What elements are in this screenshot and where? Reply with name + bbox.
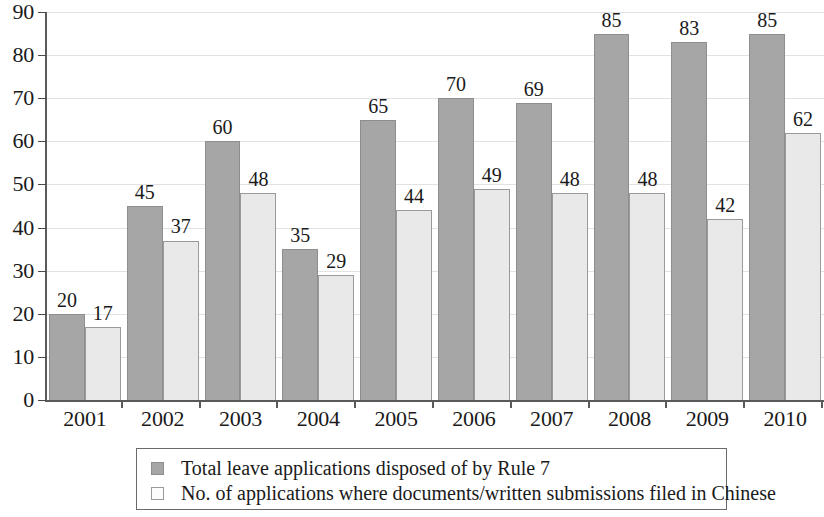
- bar-group: [205, 0, 277, 400]
- legend-item-label: No. of applications where documents/writ…: [181, 482, 776, 504]
- legend: Total leave applications disposed of by …: [136, 448, 727, 510]
- bar-value-label: 17: [79, 303, 127, 323]
- bar-value-label: 44: [390, 186, 438, 206]
- x-tick-mark: [121, 400, 123, 408]
- y-tick-label: 20: [0, 303, 34, 325]
- bar-value-label: 62: [779, 109, 824, 129]
- bar-light: [707, 219, 743, 400]
- bar-dark: [749, 34, 785, 400]
- bar-value-label: 29: [312, 251, 360, 271]
- y-tick-mark: [38, 184, 46, 185]
- bar-dark: [49, 314, 85, 400]
- bars-layer: 2017453760483529654470496948854883428562: [46, 0, 824, 400]
- bar-value-label: 48: [235, 169, 283, 189]
- bar-group: [749, 0, 821, 400]
- y-tick-mark: [38, 228, 46, 229]
- y-tick-label: 30: [0, 260, 34, 282]
- x-tick-label: 2009: [668, 404, 746, 434]
- x-tick-label: 2006: [435, 404, 513, 434]
- plot-area: 0102030405060708090 20174537604835296544…: [0, 0, 824, 420]
- y-tick-label: 70: [0, 87, 34, 109]
- bar-value-label: 60: [199, 117, 247, 137]
- bar-dark: [282, 249, 318, 400]
- bar-dark: [516, 103, 552, 400]
- x-axis-line: [45, 400, 824, 402]
- x-tick-mark: [354, 400, 356, 408]
- legend-item: Total leave applications disposed of by …: [151, 456, 726, 480]
- x-tick-label: 2001: [46, 404, 124, 434]
- x-axis: 2001200220032004200520062007200820092010: [46, 404, 824, 440]
- y-tick-label: 40: [0, 217, 34, 239]
- x-tick-label: 2004: [279, 404, 357, 434]
- y-tick-mark: [38, 314, 46, 315]
- bar-light: [240, 193, 276, 400]
- x-tick-mark: [276, 400, 278, 408]
- x-tick-mark: [665, 400, 667, 408]
- bar-value-label: 48: [546, 169, 594, 189]
- legend-item: No. of applications where documents/writ…: [151, 481, 726, 505]
- bar-light: [85, 327, 121, 400]
- bar-light: [552, 193, 588, 400]
- x-tick-mark: [588, 400, 590, 408]
- bar-value-label: 70: [432, 74, 480, 94]
- bar-group: [282, 0, 354, 400]
- x-tick-mark: [821, 400, 823, 408]
- x-tick-mark: [432, 400, 434, 408]
- legend-item-label: Total leave applications disposed of by …: [181, 457, 550, 479]
- bar-value-label: 37: [157, 216, 205, 236]
- y-tick-label: 50: [0, 173, 34, 195]
- x-tick-mark: [510, 400, 512, 408]
- x-tick-label: 2005: [357, 404, 435, 434]
- y-tick-label: 10: [0, 346, 34, 368]
- bar-value-label: 83: [665, 18, 713, 38]
- x-tick-label: 2008: [591, 404, 669, 434]
- legend-swatch-dark-icon: [151, 462, 164, 475]
- x-tick-mark: [743, 400, 745, 408]
- bar-light: [163, 241, 199, 401]
- y-tick-mark: [38, 271, 46, 272]
- y-tick-mark: [38, 98, 46, 99]
- x-tick-label: 2003: [202, 404, 280, 434]
- bar-group: [49, 0, 121, 400]
- bar-dark: [594, 34, 630, 400]
- y-tick-mark: [38, 55, 46, 56]
- y-axis: 0102030405060708090: [0, 0, 34, 420]
- legend-swatch-light-icon: [151, 487, 164, 500]
- bar-chart: 0102030405060708090 20174537604835296544…: [0, 0, 824, 517]
- y-tick-label: 60: [0, 130, 34, 152]
- bar-dark: [671, 42, 707, 400]
- x-tick-label: 2007: [513, 404, 591, 434]
- bar-light: [474, 189, 510, 400]
- bar-group: [594, 0, 666, 400]
- bar-value-label: 42: [701, 195, 749, 215]
- bar-value-label: 85: [588, 10, 636, 30]
- bar-value-label: 48: [624, 169, 672, 189]
- y-tick-mark: [38, 141, 46, 142]
- y-tick-label: 90: [0, 1, 34, 23]
- bar-value-label: 49: [468, 165, 516, 185]
- bar-value-label: 35: [276, 225, 324, 245]
- bar-light: [318, 275, 354, 400]
- x-tick-label: 2002: [124, 404, 202, 434]
- bar-dark: [360, 120, 396, 400]
- y-tick-mark: [38, 400, 46, 401]
- bar-value-label: 65: [354, 96, 402, 116]
- bar-group: [438, 0, 510, 400]
- bar-dark: [438, 98, 474, 400]
- bar-value-label: 85: [743, 10, 791, 30]
- bar-light: [396, 210, 432, 400]
- y-tick-mark: [38, 12, 46, 13]
- x-tick-label: 2010: [746, 404, 824, 434]
- y-tick-label: 80: [0, 44, 34, 66]
- bar-light: [629, 193, 665, 400]
- bar-group: [516, 0, 588, 400]
- y-tick-mark: [38, 357, 46, 358]
- x-tick-mark: [199, 400, 201, 408]
- bar-light: [785, 133, 821, 400]
- bar-value-label: 69: [510, 79, 558, 99]
- bar-value-label: 45: [121, 182, 169, 202]
- y-tick-label: 0: [0, 389, 34, 411]
